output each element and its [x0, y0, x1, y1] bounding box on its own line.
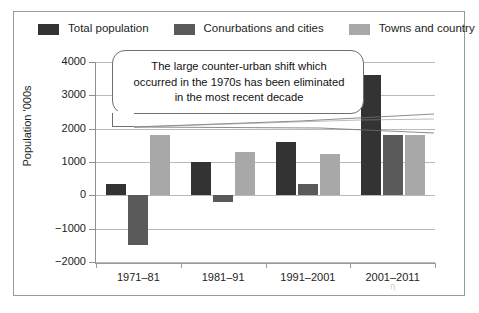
y-axis-tick-label: −2000 [40, 256, 86, 267]
bar-1981-91-3 [235, 152, 255, 195]
callout-line-1: The large counter-urban shift which [113, 59, 365, 75]
y-axis-tick [89, 129, 95, 130]
y-axis-tick [89, 262, 95, 263]
y-axis-tick [89, 162, 95, 163]
bar-2001-2011-2 [383, 135, 403, 195]
chart-screenshot: Total population Conurbations and cities… [0, 0, 479, 313]
x-axis-tick [435, 263, 436, 268]
callout-box: The large counter-urban shift which occu… [112, 50, 364, 114]
y-axis-tick [89, 62, 95, 63]
bar-1991-2001-3 [320, 154, 340, 196]
y-axis-tick [89, 95, 95, 96]
bar-1971-81-1 [106, 184, 126, 196]
y-axis-tick-label: 1000 [40, 156, 86, 167]
y-axis-tick [89, 229, 95, 230]
y-axis-tick [89, 195, 95, 196]
y-axis-tick-label: 0 [40, 189, 86, 200]
bar-1981-91-1 [191, 162, 211, 195]
x-axis-tick [350, 263, 351, 268]
x-axis-tick [266, 263, 267, 268]
x-axis-tick [181, 263, 182, 268]
callout-tail [112, 113, 134, 127]
callout-line-2: occurred in the 1970s has been eliminate… [113, 75, 365, 91]
x-axis-category-label: 1981–91 [180, 272, 266, 283]
plot-area: 40003000200010000−1000−2000 1971–811981–… [0, 0, 479, 313]
callout-text: The large counter-urban shift which occu… [113, 59, 365, 106]
bar-2001-2011-3 [405, 135, 425, 195]
bar-1971-81-2 [128, 195, 148, 245]
bar-1971-81-3 [150, 135, 170, 195]
y-axis-tick-label: 2000 [40, 123, 86, 134]
bar-1991-2001-2 [298, 184, 318, 196]
x-axis-category-label: 1971–81 [95, 272, 181, 283]
y-axis-tick-label: 4000 [40, 56, 86, 67]
y-axis-tick-label: 3000 [40, 89, 86, 100]
x-axis-tick [96, 263, 97, 268]
callout-tail-mask [113, 111, 133, 115]
gridline [96, 129, 435, 130]
y-axis-tick-label: −1000 [40, 223, 86, 234]
callout-line-3: in the most recent decade [113, 90, 365, 106]
bar-1991-2001-1 [276, 142, 296, 195]
bar-1981-91-2 [213, 195, 233, 202]
x-axis-category-label: 1991–2001 [265, 272, 351, 283]
